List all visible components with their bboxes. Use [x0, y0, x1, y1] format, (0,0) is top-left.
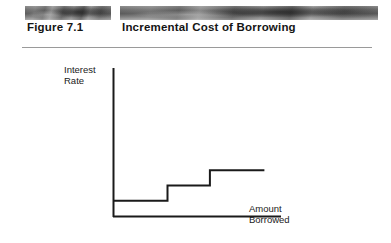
x-axis-label-line2: Borrowed — [249, 214, 290, 225]
step-chart-svg — [0, 0, 391, 243]
y-axis-label-line1: Interest — [64, 64, 96, 75]
chart-area: Interest Rate Amount Borrowed — [0, 0, 391, 243]
x-axis-label-line1: Amount — [249, 203, 290, 214]
x-axis-label: Amount Borrowed — [249, 203, 290, 225]
step-function-line — [113, 170, 264, 201]
y-axis-label-line2: Rate — [64, 75, 96, 86]
y-axis-label: Interest Rate — [64, 64, 96, 86]
figure-root: Figure 7.1 Incremental Cost of Borrowing… — [0, 0, 391, 243]
